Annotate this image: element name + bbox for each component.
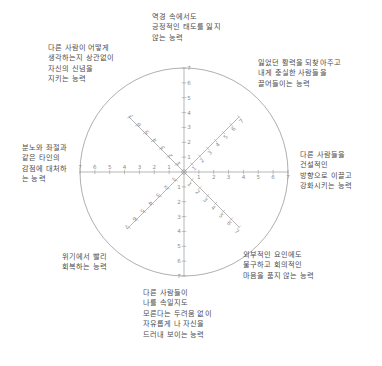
- axis-tick-label: 3: [187, 124, 191, 130]
- axis-label-bottom-left: 위기에서 빨리 회복하는 능력: [62, 252, 158, 273]
- axes-group: [80, 68, 288, 276]
- axis-tick-label: 6: [226, 220, 233, 227]
- axis-tick-label: 3: [177, 214, 181, 220]
- axis-tick-label: 2: [167, 153, 174, 160]
- axis-up-right: [184, 117, 239, 172]
- axis-tick-label: 5: [177, 243, 181, 249]
- axis-label-top: 역경 속에서도 긍정적인 태도를 잃지 않는 능력: [152, 12, 272, 43]
- axis-tick-label: 7: [123, 224, 130, 231]
- axis-tick-label: 5: [222, 133, 229, 140]
- axis-tick-label: 2: [198, 157, 205, 164]
- axis-tick-label: 7: [177, 273, 181, 279]
- axis-label-top-right: 잃었던 활력을 되찾아주고 내게 충실한 사람들을 끌어들이는 능력: [258, 58, 382, 89]
- axis-tick-label: 3: [206, 149, 213, 156]
- axis-tick-label: 2: [163, 184, 170, 191]
- axis-tick-label: 7: [234, 228, 241, 235]
- axis-tick-label: 2: [177, 199, 181, 205]
- resilience-wheel-diagram: 1234567123456712345671234567123456712345…: [0, 0, 382, 366]
- axis-tick-label: 4: [210, 204, 217, 211]
- axis-label-bottom-right: 외부적인 요인에도 불구하고 회의적인 마음을 품지 않는 능력: [243, 250, 379, 281]
- axis-tick-label: 2: [194, 188, 201, 195]
- axis-tick-label: 5: [218, 212, 225, 219]
- axis-tick-label: 6: [177, 258, 181, 264]
- axis-tick-label: 4: [187, 110, 191, 116]
- axis-tick-label: 7: [286, 174, 290, 180]
- axis-tick-label: 2: [153, 164, 157, 170]
- axis-tick-label: 1: [167, 164, 171, 170]
- axis-tick-label: 7: [238, 117, 245, 124]
- axis-tick-label: 4: [242, 174, 246, 180]
- axis-tick-label: 6: [230, 125, 237, 132]
- axis-tick-label: 1: [186, 181, 193, 188]
- axis-label-bottom: 다른 사람들이 나를 속일지도 모른다는 두려움 없이 자유롭게 나 자신을 드…: [143, 288, 267, 340]
- axis-tick-label: 3: [227, 174, 231, 180]
- axis-tick-label: 1: [177, 184, 181, 190]
- axis-tick-label: 6: [271, 174, 275, 180]
- axis-tick-label: 5: [257, 174, 261, 180]
- axis-tick-label: 2: [212, 174, 216, 180]
- axis-label-top-left: 다른 사람이 어떻게 생각하는지 상관없이 자신의 신념을 지키는 능력: [48, 43, 158, 85]
- axis-tick-label: 1: [197, 174, 201, 180]
- axis-tick-label: 5: [187, 95, 191, 101]
- axis-tick-label: 7: [187, 65, 191, 71]
- axis-tick-label: 6: [187, 80, 191, 86]
- axis-tick-label: 4: [123, 164, 127, 170]
- axis-label-left: 분노와 좌절과 같은 타인의 감점에 대처하 는 능력: [22, 143, 110, 185]
- axis-down-right: [184, 172, 239, 227]
- axis-tick-label: 7: [127, 113, 134, 120]
- axis-tick-label: 2: [187, 139, 191, 145]
- axis-tick-label: 3: [202, 196, 209, 203]
- axis-label-right: 다른 사람들을 건설적인 방향으로 이끌고 강화시키는 능력: [300, 150, 382, 192]
- axis-tick-label: 3: [138, 164, 142, 170]
- axis-tick-label: 1: [187, 154, 191, 160]
- axis-tick-label: 4: [214, 141, 221, 148]
- axis-tick-label: 4: [177, 228, 181, 234]
- axis-tick-label: 1: [191, 165, 198, 172]
